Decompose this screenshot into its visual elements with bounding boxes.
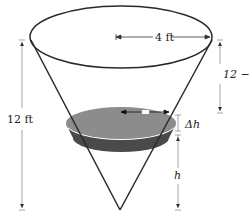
cone-svg [0, 0, 250, 224]
slice-thickness-label: Δh [185, 119, 200, 130]
water-slice [66, 107, 176, 152]
cone-diagram: 4 ft 12 ft 12 − h Δh h [0, 0, 250, 224]
slice-height-dimension [175, 115, 181, 210]
top-radius-label: 4 ft [155, 32, 174, 43]
slice-height-label: h [174, 170, 181, 181]
remaining-height-label: 12 − h [223, 69, 250, 80]
total-height-label: 12 ft [7, 114, 33, 125]
